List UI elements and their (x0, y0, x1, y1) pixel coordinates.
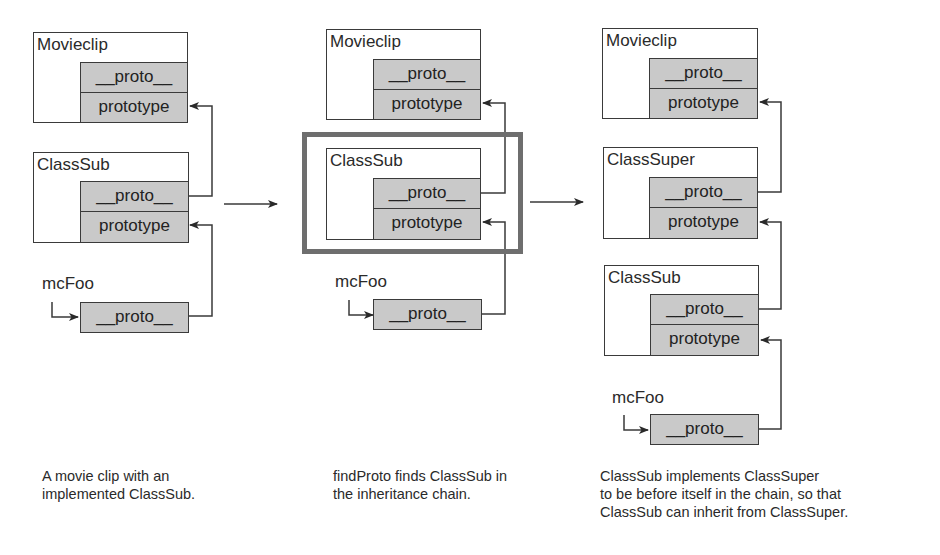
panel-2-caption: findProto finds ClassSub in the inherita… (333, 467, 507, 503)
prototype-cell: prototype (373, 208, 481, 240)
caption-line: A movie clip with an (42, 467, 195, 485)
instance-label: mcFoo (335, 272, 387, 292)
caption-line: ClassSub implements ClassSuper (600, 467, 848, 485)
proto-cell: __proto__ (80, 62, 188, 93)
instance-label: mcFoo (612, 388, 664, 408)
prototype-cell: prototype (80, 211, 189, 243)
prototype-cell: prototype (649, 88, 758, 119)
caption-line: implemented ClassSub. (42, 485, 195, 503)
instance-proto-cell: __proto__ (373, 299, 482, 330)
object-label: Movieclip (606, 31, 677, 51)
instance-proto-cell: __proto__ (80, 302, 189, 333)
caption-line: to be before itself in the chain, so tha… (600, 485, 848, 503)
object-label: ClassSub (37, 155, 110, 175)
prototype-cell: prototype (649, 207, 758, 239)
proto-cell: __proto__ (649, 58, 758, 89)
caption-line: the inheritance chain. (333, 485, 507, 503)
prototype-cell: prototype (650, 324, 759, 356)
object-label: Movieclip (37, 35, 108, 55)
caption-line: ClassSub can inherit from ClassSuper. (600, 503, 848, 521)
panel-1-caption: A movie clip with an implemented ClassSu… (42, 467, 195, 503)
object-label: ClassSub (330, 151, 403, 171)
proto-cell: __proto__ (373, 178, 481, 209)
prototype-cell: prototype (373, 89, 481, 120)
proto-cell: __proto__ (650, 294, 759, 325)
object-label: ClassSuper (607, 150, 695, 170)
instance-label: mcFoo (42, 274, 94, 294)
caption-line: findProto finds ClassSub in (333, 467, 507, 485)
object-label: ClassSub (608, 268, 681, 288)
panel-3-caption: ClassSub implements ClassSuper to be bef… (600, 467, 848, 521)
proto-cell: __proto__ (373, 59, 481, 90)
proto-cell: __proto__ (80, 181, 189, 212)
proto-cell: __proto__ (649, 177, 758, 208)
prototype-cell: prototype (80, 92, 188, 123)
instance-proto-cell: __proto__ (650, 414, 759, 445)
object-label: Movieclip (330, 32, 401, 52)
